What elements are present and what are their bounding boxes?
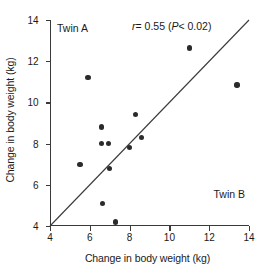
x-tick-14	[249, 226, 250, 231]
y-tick-label-12: 12	[27, 56, 38, 67]
correlation-r-value: = 0.55 (	[136, 20, 172, 32]
x-tick-6	[90, 226, 91, 231]
corner-label-twin-a: Twin A	[57, 22, 88, 34]
y-tick-label-8: 8	[33, 138, 39, 149]
y-axis-title: Change in body weight (kg)	[0, 0, 20, 240]
x-tick-label-6: 6	[87, 232, 93, 243]
x-tick-label-8: 8	[127, 232, 133, 243]
y-tick-label-4: 4	[33, 221, 39, 232]
x-tick-8	[130, 226, 131, 231]
scatter-plot-figure: Change in body weight (kg) Change in bod…	[0, 0, 263, 273]
x-tick-12	[209, 226, 210, 231]
x-tick-label-4: 4	[47, 232, 53, 243]
corner-label-twin-b: Twin B	[213, 188, 245, 200]
x-axis-title: Change in body weight (kg)	[40, 252, 255, 264]
x-tick-label-14: 14	[243, 232, 254, 243]
data-point	[234, 82, 239, 87]
data-point	[77, 162, 82, 167]
y-tick-label-6: 6	[33, 179, 39, 190]
x-tick-label-10: 10	[164, 232, 175, 243]
y-tick-label-10: 10	[27, 97, 38, 108]
correlation-p-value: < 0.02)	[178, 20, 211, 32]
x-tick-10	[169, 226, 170, 231]
x-tick-4	[50, 226, 51, 231]
y-tick-label-14: 14	[27, 15, 38, 26]
data-point	[187, 45, 192, 50]
correlation-annotation: r= 0.55 (P< 0.02)	[132, 20, 211, 32]
data-point	[113, 219, 118, 224]
x-tick-label-12: 12	[204, 232, 215, 243]
data-point	[85, 75, 90, 80]
y-axis-title-text: Change in body weight (kg)	[4, 57, 16, 182]
plot-area: 468101214 468101214 Twin A Twin B r= 0.5…	[50, 20, 249, 226]
